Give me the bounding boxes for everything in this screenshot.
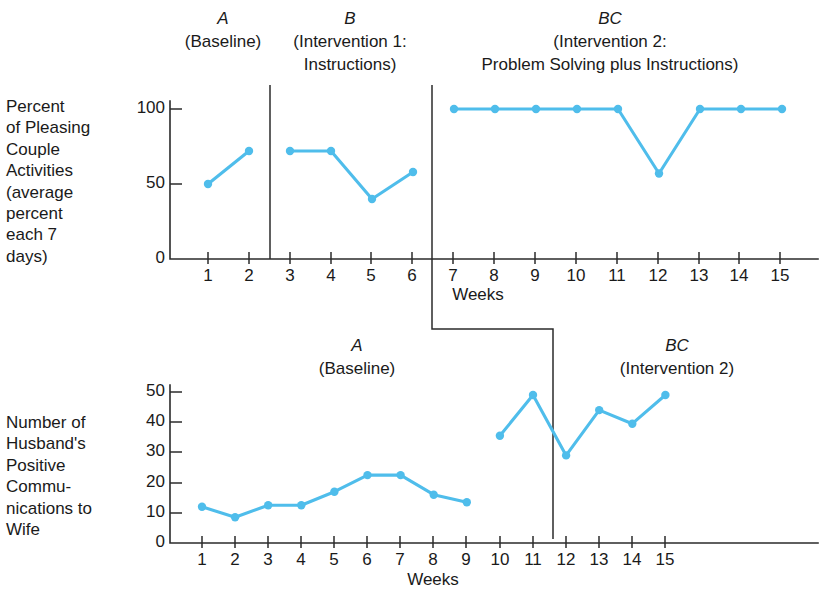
data-point — [628, 420, 636, 428]
data-point — [286, 147, 294, 155]
data-point — [595, 406, 603, 414]
bottom-panel-xtick-7: 7 — [395, 550, 404, 569]
data-point — [529, 391, 537, 399]
bottom-panel-xtick-11: 11 — [524, 550, 542, 569]
top-panel-xtick-14: 14 — [730, 266, 749, 285]
top-panel-data-series — [204, 105, 786, 203]
top-panel-xaxis-title: Weeks — [452, 285, 504, 304]
data-point — [614, 105, 622, 113]
top-panel-xtick-4: 4 — [326, 266, 335, 285]
bottom-panel-xtick-4: 4 — [296, 550, 305, 569]
data-point — [245, 147, 253, 155]
bottom-panel-phase-a-letter: A — [350, 336, 362, 355]
top-panel-xtick-9: 9 — [530, 266, 539, 285]
data-point — [496, 432, 504, 440]
bottom-panel-xtick-8: 8 — [428, 550, 437, 569]
top-panel-ytick-0: 0 — [156, 248, 165, 267]
bottom-panel-xtick-14: 14 — [623, 550, 642, 569]
bottom-panel-xtick-5: 5 — [329, 550, 338, 569]
data-point — [532, 105, 540, 113]
top-panel-xtick-11: 11 — [608, 266, 626, 285]
top-panel: 100 50 0 1 — [137, 9, 818, 304]
top-panel-ytick-100: 100 — [137, 98, 165, 117]
top-panel-phase-a-letter: A — [216, 9, 228, 28]
data-point — [696, 105, 704, 113]
data-line-segment-a — [202, 475, 467, 517]
data-point — [409, 168, 417, 176]
data-point — [231, 513, 239, 521]
data-point — [297, 501, 305, 509]
top-panel-xtick-5: 5 — [366, 266, 375, 285]
data-line-segment-b — [290, 151, 413, 199]
data-point — [737, 105, 745, 113]
bottom-panel-phase-bc-desc-1: (Intervention 2) — [620, 359, 734, 378]
top-panel-phase-bc-letter: BC — [598, 9, 622, 28]
bottom-panel-ytick-0: 0 — [156, 532, 165, 551]
top-panel-ytick-50: 50 — [146, 173, 165, 192]
data-point — [450, 105, 458, 113]
top-panel-axes — [170, 101, 818, 259]
bottom-panel-xtick-10: 10 — [491, 550, 510, 569]
bottom-panel-xtick-15: 15 — [656, 550, 675, 569]
top-panel-y-ticks — [170, 109, 182, 184]
top-panel-xtick-15: 15 — [771, 266, 790, 285]
top-panel-xtick-8: 8 — [489, 266, 498, 285]
top-panel-xtick-2: 2 — [244, 266, 253, 285]
data-point — [778, 105, 786, 113]
top-panel-phase-bc-desc-2: Problem Solving plus Instructions) — [481, 55, 738, 74]
data-point — [430, 491, 438, 499]
bottom-panel-ytick-20: 20 — [146, 472, 165, 491]
bottom-panel-xtick-1: 1 — [197, 550, 206, 569]
top-panel-phase-bc-desc-1: (Intervention 2: — [553, 32, 666, 51]
data-point — [655, 169, 663, 177]
bottom-panel: 50 40 30 20 10 0 — [146, 336, 818, 589]
top-panel-x-ticks — [208, 252, 780, 264]
bottom-panel-xtick-6: 6 — [362, 550, 371, 569]
data-line-segment-a — [208, 151, 249, 184]
bottom-panel-xtick-3: 3 — [263, 550, 272, 569]
chart-svg-layer: 100 50 0 1 — [0, 0, 823, 604]
data-point — [327, 147, 335, 155]
data-point — [573, 105, 581, 113]
data-point — [204, 180, 212, 188]
data-point — [264, 501, 272, 509]
top-panel-xtick-3: 3 — [285, 266, 294, 285]
bottom-panel-x-ticks — [202, 536, 665, 548]
data-point — [330, 488, 338, 496]
top-panel-phase-a-desc-1: (Baseline) — [185, 32, 262, 51]
bottom-panel-y-ticks — [170, 392, 182, 513]
top-panel-xtick-13: 13 — [690, 266, 709, 285]
bottom-panel-xaxis-title: Weeks — [407, 570, 459, 589]
top-panel-phase-b-desc-1: (Intervention 1: — [293, 32, 406, 51]
bottom-panel-axes — [170, 385, 818, 543]
data-point — [363, 471, 371, 479]
bottom-panel-ytick-10: 10 — [146, 502, 165, 521]
bottom-panel-ytick-40: 40 — [146, 411, 165, 430]
top-panel-xtick-6: 6 — [407, 266, 416, 285]
data-point — [198, 503, 206, 511]
bottom-panel-xtick-9: 9 — [461, 550, 470, 569]
bottom-panel-phase-a-desc-1: (Baseline) — [319, 359, 396, 378]
bottom-panel-xtick-13: 13 — [590, 550, 609, 569]
bottom-panel-data-series — [198, 391, 670, 522]
data-line-segment-bc — [454, 109, 782, 174]
bottom-panel-xtick-12: 12 — [557, 550, 576, 569]
data-point — [661, 391, 669, 399]
data-point — [463, 498, 471, 506]
top-panel-xtick-10: 10 — [567, 266, 586, 285]
data-point — [396, 471, 404, 479]
bottom-panel-ytick-30: 30 — [146, 441, 165, 460]
bottom-panel-phase-bc-letter: BC — [665, 336, 689, 355]
top-panel-xtick-7: 7 — [448, 266, 457, 285]
data-point — [562, 451, 570, 459]
top-panel-xtick-12: 12 — [649, 266, 668, 285]
bottom-panel-xtick-2: 2 — [230, 550, 239, 569]
top-panel-xtick-1: 1 — [203, 266, 212, 285]
figure-container: Percent of Pleasing Couple Activities (a… — [0, 0, 823, 604]
bottom-panel-ytick-50: 50 — [146, 381, 165, 400]
data-point — [368, 195, 376, 203]
data-line-segment-bc — [500, 395, 666, 455]
data-point — [491, 105, 499, 113]
top-panel-phase-b-letter: B — [344, 9, 355, 28]
top-panel-phase-b-desc-2: Instructions) — [304, 55, 397, 74]
